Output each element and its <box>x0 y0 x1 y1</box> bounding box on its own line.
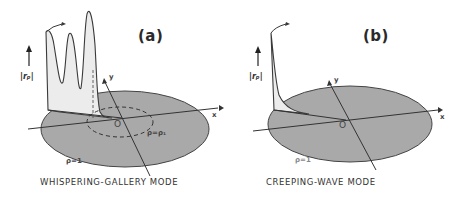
panel-label: (a) <box>138 27 163 45</box>
panel-b-creeping-wave: (b) |rₚ| y x O ρ=1 CREEPING-WAVE MODE <box>233 0 466 197</box>
x-arrowhead <box>219 105 224 111</box>
origin-label: O <box>339 120 346 130</box>
arrowhead <box>61 22 66 26</box>
inner-contour-label: ρ=ρ₁ <box>147 129 166 137</box>
whispering-gallery-diagram <box>0 0 233 197</box>
y-axis-label: |rₚ| <box>20 72 34 81</box>
y-axis-label: |rₚ| <box>249 72 263 81</box>
boundary-label: ρ=1 <box>295 156 311 164</box>
origin-label: O <box>114 119 121 129</box>
panel-label: (b) <box>363 27 389 45</box>
magnitude-arrowhead <box>26 45 32 52</box>
y-axis-letter: y <box>109 73 114 81</box>
y-axis-letter: y <box>334 76 339 84</box>
x-axis-letter: x <box>212 111 217 119</box>
magnitude-arrowhead <box>255 46 261 53</box>
panel-a-whispering-gallery: (a) |rₚ| y x O ρ=ρ₁ ρ=1 WHISPERING-GALLE… <box>0 0 233 197</box>
arrowhead <box>285 22 290 26</box>
boundary-label: ρ=1 <box>66 157 82 165</box>
disk-ellipse <box>268 86 432 162</box>
y-arrowhead <box>327 80 332 86</box>
y-arrowhead <box>102 78 107 84</box>
creeping-wave-diagram <box>233 0 466 197</box>
x-axis-letter: x <box>440 113 445 121</box>
caption: WHISPERING-GALLERY MODE <box>40 177 178 187</box>
propagation-arrow <box>271 24 286 33</box>
caption: CREEPING-WAVE MODE <box>266 177 376 187</box>
